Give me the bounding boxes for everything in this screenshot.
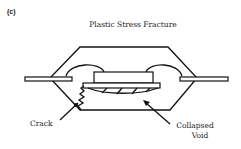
- crack-leader-arrowhead: [74, 103, 78, 107]
- left-lead: [25, 77, 72, 81]
- void-leader-line: [146, 103, 170, 124]
- die-pad: [83, 83, 160, 88]
- collapsed-void-label-line2: Void: [191, 131, 209, 140]
- right-lead: [180, 77, 228, 81]
- collapsed-void-label-line1: Collapsed: [176, 121, 214, 130]
- crack: [78, 86, 84, 110]
- die: [94, 72, 153, 83]
- figure-title: Plastic Stress Fracture: [89, 20, 177, 29]
- crack-label: Crack: [30, 119, 53, 128]
- plastic-stress-fracture-diagram: (c) Plastic Stress Fracture Crack Collap…: [0, 0, 241, 149]
- panel-label: (c): [7, 8, 16, 16]
